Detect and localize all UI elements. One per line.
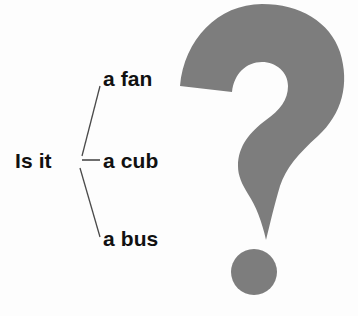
option-label-a-cub: a cub bbox=[103, 150, 158, 171]
connector-line-up bbox=[82, 86, 100, 156]
question-mark-hook bbox=[180, 4, 344, 240]
question-mark-dot bbox=[231, 249, 277, 295]
option-label-a-fan: a fan bbox=[103, 68, 153, 89]
question-stem-label: Is it bbox=[15, 150, 52, 171]
option-label-a-bus: a bus bbox=[103, 228, 158, 249]
branch-diagram: Is it a fan a cub a bus bbox=[0, 0, 190, 316]
worksheet-page: Is it a fan a cub a bus bbox=[0, 0, 358, 316]
question-mark-icon bbox=[170, 0, 358, 316]
connector-line-down bbox=[80, 168, 100, 237]
